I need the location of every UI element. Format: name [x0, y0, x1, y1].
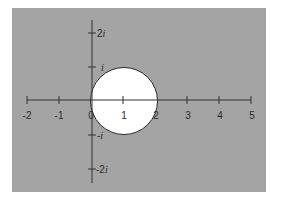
real-tick-label: 4 [217, 110, 223, 121]
real-tick-label: 1 [121, 110, 127, 121]
imag-tick-label-2i: 2i [97, 28, 106, 39]
real-tick-label: 2 [153, 110, 159, 121]
unit-disk-centered-at-1 [91, 68, 158, 135]
complex-plane-diagram: -2 -1 0 1 2 3 4 5 2i i -i -2i [0, 0, 282, 203]
imag-tick-label-i: i [101, 62, 104, 73]
real-tick-label: 0 [88, 110, 94, 121]
real-tick-label: 5 [249, 110, 255, 121]
imag-tick-label-neg-i: -i [97, 130, 103, 141]
imag-tick-label-neg-2i: -2i [96, 164, 108, 175]
real-tick-label: -2 [23, 110, 32, 121]
real-tick-label: 3 [185, 110, 191, 121]
real-tick-label: -1 [55, 110, 64, 121]
